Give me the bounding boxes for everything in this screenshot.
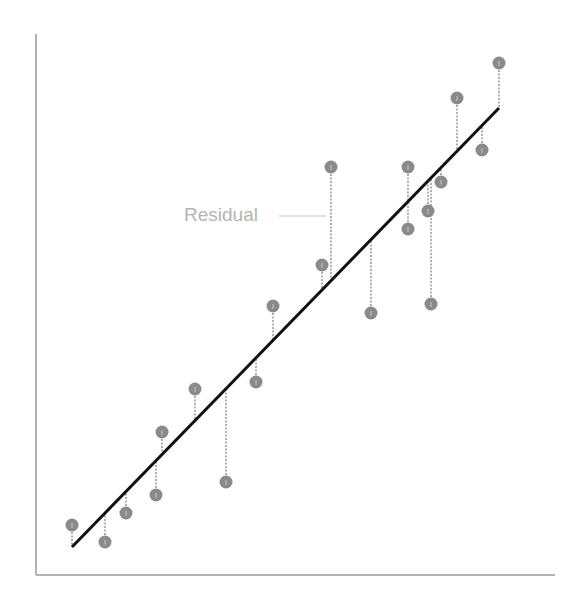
data-points [66,57,506,549]
regression-line [72,108,499,547]
residual-annotation-label: Residual [184,204,258,226]
regression-residual-chart [0,0,567,599]
